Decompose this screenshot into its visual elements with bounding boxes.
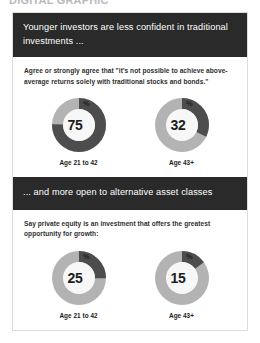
donut-graphic: 25%	[51, 250, 107, 306]
donut-graphic: 32%	[154, 97, 210, 153]
donut-label: Age 21 to 42	[59, 159, 97, 166]
donut-value: 32%	[154, 97, 210, 153]
donut-graphic: 15%	[154, 250, 210, 306]
section-2-subtitle: Say private equity is an investment that…	[13, 210, 247, 244]
section-2-chart-row: 25% Age 21 to 42 15% Age 43+	[13, 244, 247, 319]
donut-value: 25%	[51, 250, 107, 306]
donut-chart-4: 15% Age 43+	[134, 250, 230, 319]
donut-label: Age 21 to 42	[59, 312, 97, 319]
donut-chart-2: 32% Age 43+	[134, 97, 230, 166]
donut-value: 75%	[51, 97, 107, 153]
section-2-heading: ... and more open to alternative asset c…	[13, 177, 247, 210]
infographic-card: Younger investors are less confident in …	[12, 12, 248, 331]
donut-graphic: 75%	[51, 97, 107, 153]
donut-value: 15%	[154, 250, 210, 306]
section-1-heading: Younger investors are less confident in …	[13, 13, 247, 57]
section-divider-space	[13, 166, 247, 177]
clipped-top-text: DIGITAL GRAPHIC	[9, 0, 139, 7]
card-bottom-space	[13, 319, 247, 331]
section-1-subtitle: Agree or strongly agree that "it's not p…	[13, 57, 247, 91]
donut-label: Age 43+	[169, 159, 194, 166]
donut-chart-3: 25% Age 21 to 42	[31, 250, 127, 319]
donut-chart-1: 75% Age 21 to 42	[31, 97, 127, 166]
donut-label: Age 43+	[169, 312, 194, 319]
section-1-chart-row: 75% Age 21 to 42 32% Age 43+	[13, 91, 247, 166]
